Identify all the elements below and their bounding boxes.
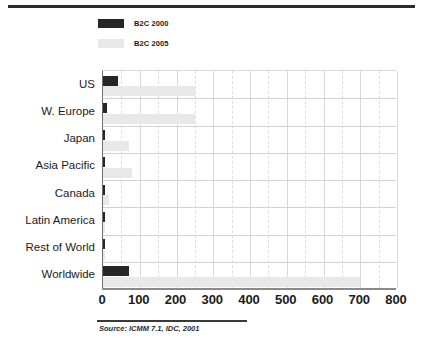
x-axis-line bbox=[102, 288, 396, 290]
bar bbox=[103, 114, 195, 124]
bar bbox=[103, 103, 107, 113]
legend-swatch-b2c-2005 bbox=[98, 39, 124, 48]
category-axis-labels: USW. EuropeJapanAsia PacificCanadaLatin … bbox=[0, 70, 99, 288]
category-label: W. Europe bbox=[41, 105, 95, 117]
bar bbox=[103, 86, 195, 96]
legend-label-b2c-2005: B2C 2005 bbox=[134, 39, 169, 48]
bar bbox=[103, 266, 129, 276]
x-axis-tick-labels: 0100200300400500600700800 bbox=[0, 292, 423, 312]
x-tick-label: 800 bbox=[385, 292, 407, 307]
category-label: Rest of World bbox=[26, 241, 95, 253]
legend-label-b2c-2000: B2C 2000 bbox=[134, 19, 169, 28]
category-label: Worldwide bbox=[42, 268, 95, 280]
bar-group bbox=[103, 235, 396, 262]
legend-item-b2c-2000: B2C 2000 bbox=[98, 15, 278, 32]
category-label: Canada bbox=[55, 187, 95, 199]
x-tick-label: 400 bbox=[238, 292, 260, 307]
bar-group bbox=[103, 207, 396, 234]
bar bbox=[103, 250, 105, 260]
footer-divider-rule bbox=[97, 320, 247, 322]
bar bbox=[103, 185, 105, 195]
bar bbox=[103, 239, 105, 249]
category-label: Latin America bbox=[25, 214, 95, 226]
chart-plot-wrapper: USW. EuropeJapanAsia PacificCanadaLatin … bbox=[0, 70, 423, 300]
bar bbox=[103, 168, 132, 178]
bar bbox=[103, 223, 105, 233]
x-tick-label: 700 bbox=[348, 292, 370, 307]
gridline-major bbox=[397, 71, 398, 288]
x-tick-label: 200 bbox=[165, 292, 187, 307]
bar-group bbox=[103, 180, 396, 207]
bar bbox=[103, 195, 109, 205]
source-note: Source: ICMM 7.1, IDC, 2001 bbox=[99, 324, 199, 333]
category-label: Asia Pacific bbox=[36, 159, 95, 171]
x-tick-label: 600 bbox=[312, 292, 334, 307]
top-divider-rule bbox=[8, 5, 415, 8]
legend-swatch-b2c-2000 bbox=[98, 19, 124, 28]
bar-group bbox=[103, 126, 396, 153]
x-tick-label: 300 bbox=[201, 292, 223, 307]
category-label: US bbox=[79, 78, 95, 90]
legend-item-b2c-2005: B2C 2005 bbox=[98, 35, 278, 52]
bar-group bbox=[103, 98, 396, 125]
x-tick-label: 100 bbox=[128, 292, 150, 307]
bar bbox=[103, 141, 129, 151]
bar-group bbox=[103, 153, 396, 180]
bar bbox=[103, 212, 105, 222]
category-label: Japan bbox=[64, 132, 95, 144]
bar bbox=[103, 130, 105, 140]
bar-group bbox=[103, 71, 396, 98]
plot-area bbox=[102, 70, 396, 288]
x-tick-label: 0 bbox=[98, 292, 105, 307]
bar-group bbox=[103, 262, 396, 289]
bar bbox=[103, 76, 118, 86]
x-tick-label: 500 bbox=[275, 292, 297, 307]
bar bbox=[103, 157, 105, 167]
chart-legend: B2C 2000 B2C 2005 bbox=[98, 15, 278, 55]
bar bbox=[103, 277, 360, 287]
